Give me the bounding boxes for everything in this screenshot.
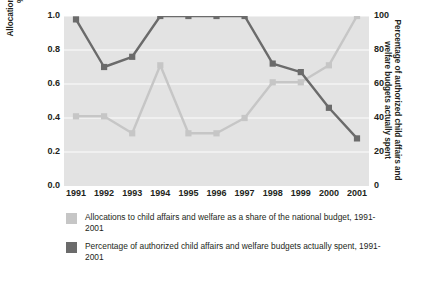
data-point-marker [157, 62, 163, 68]
legend-item-2[interactable]: Percentage of authorized child affairs a… [66, 241, 406, 263]
x-axis-tick-labels: 1991199219931994199519961997199819992000… [0, 188, 428, 202]
data-point-marker [270, 61, 276, 67]
x-tick-1996: 1996 [206, 188, 226, 198]
legend-label: Percentage of authorized child affairs a… [85, 241, 385, 263]
data-point-marker [157, 16, 163, 19]
right-tick-80: 80 [374, 44, 398, 54]
chart-legend: Allocations to child affairs and welfare… [66, 212, 406, 270]
legend-item-1[interactable]: Allocations to child affairs and welfare… [66, 212, 406, 234]
chart-figure: Allocation of child affairs and welfare … [0, 0, 428, 293]
data-point-marker [354, 135, 360, 141]
series-line-2 [76, 16, 357, 138]
data-point-marker [242, 115, 248, 121]
x-tick-1991: 1991 [66, 188, 86, 198]
x-tick-1995: 1995 [178, 188, 198, 198]
x-tick-1999: 1999 [291, 188, 311, 198]
data-point-marker [298, 79, 304, 85]
left-tick-0.6: 0.6 [36, 78, 60, 88]
series-line-1 [76, 16, 357, 133]
right-tick-100: 100 [374, 10, 398, 20]
legend-label: Allocations to child affairs and welfare… [85, 212, 385, 234]
right-tick-20: 20 [374, 146, 398, 156]
left-tick-0.2: 0.2 [36, 146, 60, 156]
x-tick-2001: 2001 [347, 188, 367, 198]
data-point-marker [129, 130, 135, 136]
data-point-marker [298, 69, 304, 75]
left-tick-0.8: 0.8 [36, 44, 60, 54]
right-tick-60: 60 [374, 78, 398, 88]
right-tick-40: 40 [374, 112, 398, 122]
data-point-marker [101, 113, 107, 119]
left-axis-title: Allocation of child affairs and welfare … [6, 0, 32, 40]
x-tick-1997: 1997 [235, 188, 255, 198]
legend-swatch-icon [66, 213, 77, 224]
data-point-marker [101, 64, 107, 70]
data-point-marker [242, 16, 248, 19]
data-point-marker [326, 105, 332, 111]
data-point-marker [326, 62, 332, 68]
data-point-marker [213, 16, 219, 19]
data-point-marker [185, 130, 191, 136]
plot-svg [64, 16, 369, 186]
legend-swatch-icon [66, 242, 77, 253]
x-tick-2000: 2000 [319, 188, 339, 198]
data-point-marker [73, 16, 79, 22]
x-tick-1992: 1992 [94, 188, 114, 198]
left-tick-1.0: 1.0 [36, 10, 60, 20]
x-tick-1998: 1998 [263, 188, 283, 198]
x-tick-1993: 1993 [122, 188, 142, 198]
plot-area [64, 16, 369, 186]
data-point-marker [270, 79, 276, 85]
x-tick-1994: 1994 [150, 188, 170, 198]
data-point-marker [129, 54, 135, 60]
left-tick-0.4: 0.4 [36, 112, 60, 122]
left-axis-tick-labels: 0.00.20.40.60.81.0 [36, 0, 60, 293]
data-point-marker [73, 113, 79, 119]
data-point-marker [354, 16, 360, 19]
data-point-marker [213, 130, 219, 136]
data-point-marker [185, 16, 191, 19]
